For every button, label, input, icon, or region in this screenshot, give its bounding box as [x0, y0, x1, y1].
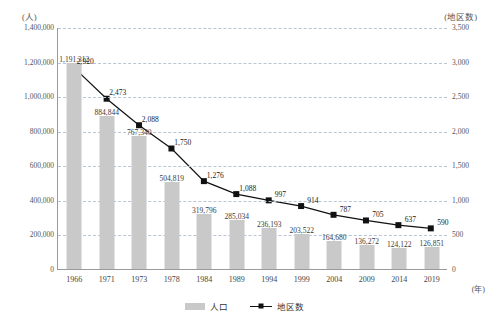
legend-label-population: 人口 [210, 300, 228, 312]
bar [262, 228, 277, 269]
bar-value-label: 884,844 [95, 109, 119, 117]
line-marker [331, 212, 337, 218]
x-axis-tick-label: 1973 [131, 275, 147, 284]
bar [197, 214, 212, 269]
bar [424, 247, 439, 269]
bar [132, 136, 147, 269]
y2-axis-tick-label: 1,500 [452, 163, 469, 171]
y-axis-tick-label: 1,400,000 [24, 24, 54, 32]
line-series-svg [58, 28, 447, 269]
bar [99, 116, 114, 269]
line-value-label: 2,473 [109, 89, 126, 97]
line-value-label: 787 [340, 205, 351, 213]
line-value-label: 914 [307, 196, 318, 204]
bar [164, 182, 179, 269]
line-marker [428, 225, 434, 231]
x-axis-tick-label: 2004 [326, 275, 342, 284]
line-value-label: 637 [405, 215, 416, 223]
y2-axis-tick-label: 0 [452, 266, 456, 274]
bar-value-label: 203,522 [290, 226, 314, 234]
bar-value-label: 136,272 [355, 238, 379, 246]
line-marker [395, 222, 401, 228]
line-value-label: 590 [437, 219, 448, 227]
x-axis-tick-label: 1966 [66, 275, 82, 284]
y2-axis-tick-label: 2,000 [452, 128, 469, 136]
bar-value-label: 124,122 [387, 240, 411, 248]
line-value-label: 1,276 [207, 171, 224, 179]
gridline [58, 201, 447, 202]
bar-value-label: 504,819 [160, 174, 184, 182]
y-axis-tick-label: 800,000 [30, 128, 54, 136]
bar [359, 245, 374, 269]
gridline [58, 63, 447, 64]
bar [229, 220, 244, 269]
y-axis-tick-label: 1,200,000 [24, 59, 54, 67]
y2-axis-tick-label: 1,000 [452, 197, 469, 205]
bar [392, 248, 407, 269]
x-axis-tick-label: 1989 [229, 275, 245, 284]
line-value-label: 997 [275, 191, 286, 199]
x-axis-tick-label: 2014 [391, 275, 407, 284]
x-axis-tick-label: 1994 [261, 275, 277, 284]
x-axis-tick-label: 1978 [164, 275, 180, 284]
legend-bar-swatch-icon [185, 303, 205, 310]
gridline [58, 235, 447, 236]
line-marker [298, 203, 304, 209]
plot-area: 00200,000500400,0001,000600,0001,500800,… [57, 28, 447, 270]
y2-axis-tick-label: 3,000 [452, 59, 469, 67]
gridline [58, 97, 447, 98]
y2-axis-tick-label: 2,500 [452, 93, 469, 101]
x-axis-tick-label: 2009 [359, 275, 375, 284]
line-marker [363, 217, 369, 223]
y2-axis-tick-label: 3,500 [452, 24, 469, 32]
gridline [58, 166, 447, 167]
line-value-label: 705 [372, 211, 383, 219]
y-axis-tick-label: 400,000 [30, 197, 54, 205]
gridline [58, 28, 447, 29]
line-path [74, 68, 431, 228]
x-axis-unit-label: (年) [472, 283, 485, 294]
y-axis-tick-label: 200,000 [30, 232, 54, 240]
bar-value-label: 164,680 [322, 233, 346, 241]
bar-value-label: 285,034 [225, 212, 249, 220]
x-axis-tick-label: 1999 [294, 275, 310, 284]
x-axis-tick-label: 1984 [196, 275, 212, 284]
bar [67, 63, 82, 269]
y2-axis-tick-label: 500 [452, 232, 463, 240]
legend-item-districts: 地区数 [250, 300, 304, 312]
bar [294, 234, 309, 269]
y-axis-unit-label: (人) [22, 10, 37, 22]
x-axis-tick-label: 2019 [424, 275, 440, 284]
y-axis-tick-label: 1,000,000 [24, 93, 54, 101]
bar-value-label: 236,193 [257, 221, 281, 229]
chart-legend: 人口 地区数 [0, 300, 489, 312]
y2-axis-unit-label: (地区数) [444, 10, 477, 22]
line-value-label: 2,920 [77, 58, 94, 66]
y-axis-tick-label: 0 [50, 266, 54, 274]
line-value-label: 1,750 [174, 139, 191, 147]
x-axis-tick-label: 1971 [99, 275, 115, 284]
y-axis-tick-label: 600,000 [30, 163, 54, 171]
bar-value-label: 767,340 [127, 129, 151, 137]
bar [327, 241, 342, 269]
bar-value-label: 319,796 [192, 206, 216, 214]
legend-line-swatch-icon [250, 303, 272, 310]
chart-container: (人) (地区数) (年) 00200,000500400,0001,00060… [0, 0, 489, 327]
bar-value-label: 126,851 [420, 240, 444, 248]
legend-item-population: 人口 [185, 300, 228, 312]
legend-label-districts: 地区数 [277, 300, 304, 312]
gridline [58, 132, 447, 133]
line-value-label: 1,088 [239, 184, 256, 192]
line-value-label: 2,088 [142, 115, 159, 123]
